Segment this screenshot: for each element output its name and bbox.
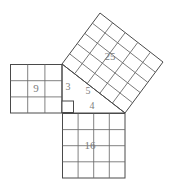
area-label-9: 9	[33, 82, 39, 94]
pythagorean-diagram: 25 9 16	[0, 0, 170, 184]
square-on-horizontal-leg: 16	[63, 114, 126, 179]
side-label-a: 3	[66, 81, 71, 92]
area-label-16: 16	[85, 139, 97, 151]
side-label-b: 4	[90, 100, 95, 111]
side-label-c: 5	[86, 85, 91, 96]
geometry-canvas: 25 9 16	[0, 0, 170, 184]
area-label-25: 25	[105, 50, 117, 62]
square-on-vertical-leg: 9	[11, 65, 63, 114]
right-angle-marker	[62, 101, 74, 113]
square-on-hypotenuse: 25	[62, 13, 163, 113]
hypotenuse-square-outline	[62, 13, 163, 113]
